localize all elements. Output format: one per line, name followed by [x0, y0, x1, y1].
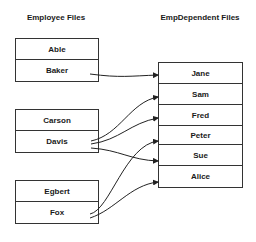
arrow-baker-jane: [90, 74, 158, 76]
arrow-davis-sue: [91, 148, 158, 161]
arrow-davis-sam: [91, 97, 158, 141]
arrow-davis-fred: [91, 118, 158, 144]
arrow-fox-peter: [90, 141, 158, 214]
link-arrows: [0, 0, 256, 242]
arrow-fox-alice: [90, 182, 158, 218]
